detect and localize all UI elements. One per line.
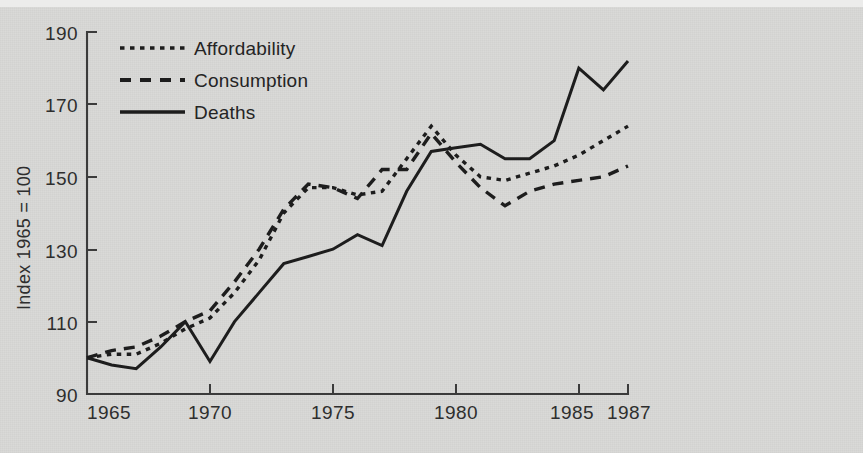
y-axis-title: Index 1965 = 100	[14, 166, 34, 310]
series-group	[87, 61, 628, 369]
legend-label-deaths: Deaths	[194, 102, 255, 123]
y-tick-label-150: 150	[45, 168, 78, 189]
legend-item-consumption: Consumption	[120, 70, 308, 91]
figure-canvas: 190 170 150 130 110 90 Index 1965 = 100 …	[0, 0, 863, 453]
legend-label-affordability: Affordability	[194, 38, 296, 59]
series-line-affordability	[87, 126, 628, 358]
y-tick-label-190: 190	[45, 23, 78, 44]
line-chart: 190 170 150 130 110 90 Index 1965 = 100 …	[0, 0, 863, 453]
y-axis-tick-labels: 190 170 150 130 110 90	[45, 23, 78, 406]
legend-item-affordability: Affordability	[120, 38, 296, 59]
x-tick-label-1970: 1970	[188, 402, 232, 423]
y-tick-label-90: 90	[56, 385, 78, 406]
x-tick-label-1975: 1975	[311, 402, 355, 423]
legend-item-deaths: Deaths	[120, 102, 255, 123]
y-tick-label-110: 110	[47, 313, 79, 334]
x-tick-label-1985: 1985	[550, 402, 594, 423]
x-tick-label-1965: 1965	[87, 402, 131, 423]
y-tick-label-130: 130	[45, 241, 78, 262]
y-tick-label-170: 170	[45, 95, 78, 116]
x-axis-ticks	[87, 384, 628, 394]
x-tick-label-1980: 1980	[434, 402, 478, 423]
series-line-deaths	[87, 61, 628, 369]
chart-legend: Affordability Consumption Deaths	[120, 38, 308, 123]
x-tick-label-1987: 1987	[607, 402, 651, 423]
legend-label-consumption: Consumption	[194, 70, 308, 91]
y-axis-ticks	[87, 32, 97, 322]
x-axis-tick-labels: 1965 1970 1975 1980 1985 1987	[87, 402, 651, 423]
